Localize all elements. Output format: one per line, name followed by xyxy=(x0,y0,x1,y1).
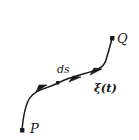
direction-arrow-2-icon xyxy=(69,76,81,82)
curve-figure: Q P ds ξ(t) xyxy=(0,0,139,140)
curve-tick-dot xyxy=(56,81,59,84)
end-point-dot xyxy=(110,36,114,40)
point-label-p: P xyxy=(30,122,39,135)
point-label-q: Q xyxy=(117,32,128,45)
arc-length-label: ds xyxy=(57,64,70,75)
direction-arrow-3-icon xyxy=(90,68,102,75)
parametrization-label: ξ(t) xyxy=(94,83,117,95)
start-point-dot xyxy=(20,128,24,132)
